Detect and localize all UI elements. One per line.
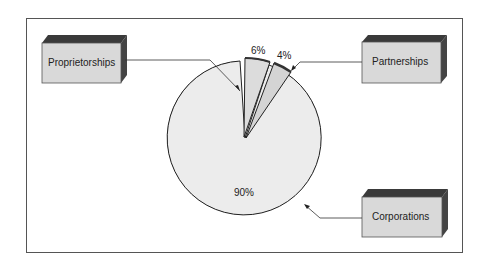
callout-corporations: Corporations (362, 189, 448, 237)
callout-corporations-label: Corporations (372, 211, 429, 222)
leader-partnerships (292, 62, 362, 70)
callout-partnerships-label: Partnerships (372, 56, 428, 67)
pie-chart: 6% 4% 90% Proprietorships Partnerships C… (0, 0, 489, 267)
leader-corporations (305, 205, 362, 218)
label-6pct: 6% (251, 45, 266, 56)
callout-proprietorships-label: Proprietorships (48, 57, 115, 68)
label-90pct: 90% (234, 187, 254, 198)
label-4pct: 4% (277, 50, 292, 61)
callout-proprietorships: Proprietorships (42, 35, 127, 83)
callout-partnerships: Partnerships (362, 35, 447, 83)
